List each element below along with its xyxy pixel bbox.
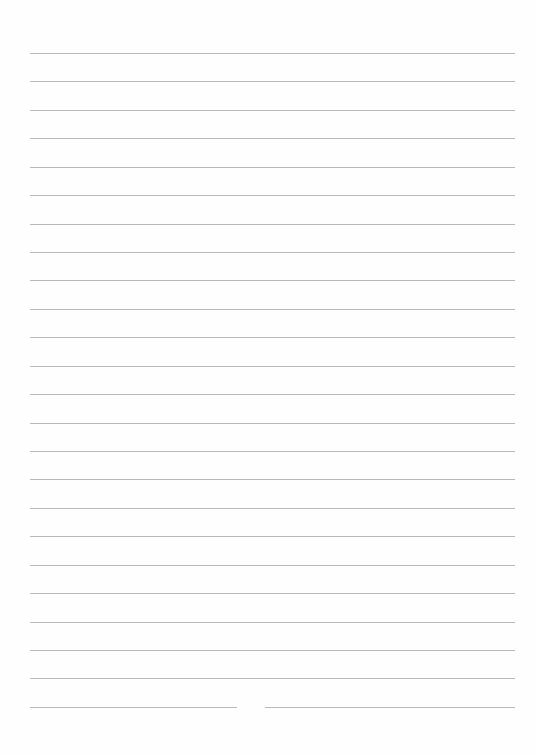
ruled-line: [30, 451, 515, 452]
ruled-line: [30, 337, 515, 338]
ruled-line: [30, 366, 515, 367]
ruled-line: [30, 678, 515, 679]
ruled-line: [30, 622, 515, 623]
ruled-line: [30, 252, 515, 253]
ruled-line: [30, 167, 515, 168]
ruled-line: [30, 565, 515, 566]
ruled-line: [30, 508, 515, 509]
ruled-line: [30, 110, 515, 111]
ruled-line: [30, 224, 515, 225]
ruled-line: [265, 707, 515, 708]
ruled-line: [30, 707, 237, 708]
ruled-line: [30, 423, 515, 424]
ruled-line: [30, 479, 515, 480]
ruled-line: [30, 53, 515, 54]
ruled-line: [30, 195, 515, 196]
ruled-line: [30, 81, 515, 82]
ruled-line: [30, 280, 515, 281]
ruled-line: [30, 536, 515, 537]
ruled-line: [30, 138, 515, 139]
lined-paper-page: [0, 0, 536, 755]
ruled-line: [30, 309, 515, 310]
ruled-line: [30, 593, 515, 594]
ruled-line: [30, 394, 515, 395]
ruled-line: [30, 650, 515, 651]
